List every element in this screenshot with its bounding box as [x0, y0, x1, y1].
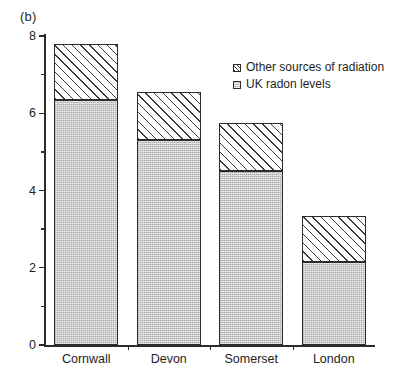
y-axis: 02468 [0, 0, 45, 381]
bar-segment [302, 262, 366, 345]
y-tick-label: 2 [29, 261, 36, 275]
bar-group [137, 36, 201, 345]
bar-segment [219, 123, 283, 171]
chart-legend: Other sources of radiation UK radon leve… [233, 60, 384, 94]
legend-item-label: UK radon levels [246, 77, 331, 92]
y-tick-label: 0 [29, 338, 36, 352]
bar-segment [54, 100, 118, 345]
bar-group [54, 36, 118, 345]
legend-item-label: Other sources of radiation [246, 60, 384, 75]
legend-item: Other sources of radiation [233, 60, 384, 75]
bar-segment [302, 216, 366, 262]
bar-segment [137, 92, 201, 140]
hatched-swatch-icon [233, 64, 241, 72]
x-tick-label: Devon [151, 352, 187, 366]
y-tick-label: 6 [29, 106, 36, 120]
x-tick [128, 345, 129, 350]
stippled-swatch-icon [233, 81, 241, 89]
x-tick [210, 345, 211, 350]
y-tick-label: 8 [29, 29, 36, 43]
bar-segment [54, 44, 118, 100]
y-axis-line [44, 34, 46, 347]
y-tick-label: 4 [29, 184, 36, 198]
x-tick [293, 345, 294, 350]
bar-segment [219, 171, 283, 345]
x-tick-label: Somerset [225, 352, 279, 366]
x-tick-label: London [313, 352, 355, 366]
bar-segment [137, 140, 201, 345]
figure-panel-b: (b) 02468 CornwallDevonSomersetLondon Ot… [0, 0, 393, 381]
legend-item: UK radon levels [233, 77, 384, 92]
x-tick-label: Cornwall [62, 352, 111, 366]
